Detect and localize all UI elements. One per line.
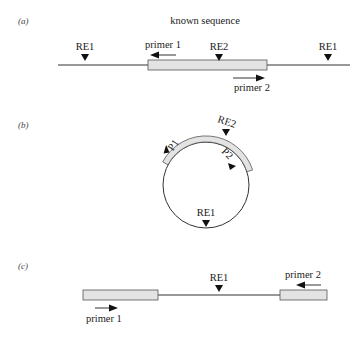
cut-site-marker-icon — [202, 220, 210, 227]
site-label-re1: RE1 — [210, 272, 229, 283]
site-label-re1: RE1 — [197, 207, 216, 218]
arrow-left-icon — [296, 282, 305, 289]
arrow-right-icon — [109, 305, 118, 312]
primer2-label: primer 2 — [285, 269, 321, 280]
arrow-left-icon — [150, 52, 159, 59]
panel-b: (b) RE2 P1 P2 RE1 — [18, 114, 253, 228]
known-sequence-box — [148, 60, 267, 70]
arrow-p2-icon — [228, 163, 236, 170]
cut-site-marker-icon — [215, 285, 223, 292]
panel-a-label: (a) — [18, 16, 29, 26]
known-sequence-title: known sequence — [170, 15, 240, 26]
primer1-label: primer 1 — [145, 39, 181, 50]
site-label-re1-left: RE1 — [76, 41, 95, 52]
site-label-re2: RE2 — [217, 114, 238, 130]
panel-a: (a) known sequence RE1 RE2 RE1 primer 1 … — [18, 15, 350, 93]
cut-site-marker-icon — [324, 54, 332, 61]
cut-site-marker-icon — [81, 54, 89, 61]
panel-c-label: (c) — [18, 261, 28, 271]
panel-c: (c) RE1 primer 1 primer 2 — [18, 261, 327, 324]
panel-b-label: (b) — [18, 120, 29, 130]
site-label-re1-right: RE1 — [319, 41, 338, 52]
known-sequence-left-box — [83, 290, 158, 300]
cut-site-marker-icon — [222, 129, 230, 136]
primer1-label: primer 1 — [86, 313, 122, 324]
arrow-right-icon — [256, 75, 265, 82]
primer2-label: primer 2 — [234, 82, 270, 93]
site-label-re2: RE2 — [210, 41, 229, 52]
inverse-pcr-diagram: (a) known sequence RE1 RE2 RE1 primer 1 … — [0, 0, 364, 337]
known-sequence-right-box — [280, 290, 327, 300]
